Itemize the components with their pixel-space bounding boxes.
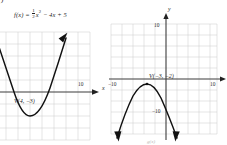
left-grid — [0, 32, 90, 140]
right-x-tick-minus-10: −10 — [108, 81, 116, 87]
right-footnote: g(x) — [147, 139, 155, 144]
left-part-label: ) — [1, 0, 3, 4]
left-equation: f(x) = 1 2 x2 − 4x + 5 — [14, 8, 67, 19]
right-vertex-label: V(−3, −2) — [149, 73, 174, 79]
right-x-tick-10: 10 — [210, 81, 215, 87]
equation-mid-term: − 4x + — [43, 11, 62, 18]
right-y-axis-name: y — [168, 6, 171, 12]
figure-page: ) f(x) = 1 2 x2 − 4x + 5 — [0, 0, 227, 145]
right-figure-panel: V(−3, −2) y 10 −10 −10 10 g(x) — [113, 0, 227, 145]
equation-lhs: f(x) = — [14, 11, 30, 18]
equation-exponent: 2 — [39, 9, 41, 14]
left-figure-panel: ) f(x) = 1 2 x2 − 4x + 5 — [0, 0, 112, 145]
left-graph-svg — [0, 28, 104, 145]
left-graph-stage — [0, 28, 104, 145]
equation-constant: 5 — [63, 11, 66, 18]
left-x-axis-name: x — [102, 85, 105, 91]
right-y-tick-minus-10: −10 — [152, 108, 160, 114]
right-vertex-dot — [146, 83, 149, 86]
right-parabola — [117, 84, 177, 138]
left-x-tick-10: 10 — [78, 81, 83, 87]
right-y-tick-10: 10 — [154, 22, 159, 28]
left-parabola — [0, 38, 66, 116]
left-vertex-label: V(4, −3) — [14, 98, 35, 104]
